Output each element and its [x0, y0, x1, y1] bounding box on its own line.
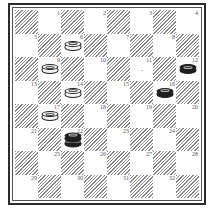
square-number: 16 — [169, 81, 175, 88]
square-dark — [176, 128, 199, 152]
square-number: 24 — [169, 128, 175, 135]
square-dark — [61, 10, 84, 34]
white-man-piece[interactable] — [64, 88, 81, 98]
square-number: 20 — [192, 104, 198, 111]
white-man-piece[interactable] — [41, 111, 58, 121]
square-number: 30 — [77, 175, 83, 182]
square-number: 32 — [169, 175, 175, 182]
checkers-board[interactable]: 1234567891011-12131415161718192021222324… — [15, 10, 199, 198]
square-number: 2 — [103, 10, 106, 17]
square-24[interactable]: 24 — [153, 128, 176, 152]
square-10[interactable]: 10 — [84, 57, 107, 81]
square-3[interactable]: 3 — [130, 10, 153, 34]
square-number: 19 — [146, 104, 152, 111]
square-number: 31 — [123, 175, 129, 182]
square-dark — [38, 175, 61, 199]
square-dark — [84, 34, 107, 58]
white-man-piece[interactable] — [41, 64, 58, 74]
square-number: 29 — [31, 175, 37, 182]
square-26[interactable]: 26 — [84, 151, 107, 175]
black-man-piece[interactable] — [179, 64, 196, 74]
square-18[interactable]: 18 — [84, 104, 107, 128]
square-dark — [107, 151, 130, 175]
square-dark — [61, 151, 84, 175]
square-7[interactable]: 7 — [107, 34, 130, 58]
square-dark — [15, 151, 38, 175]
square-dark — [153, 151, 176, 175]
square-dark — [153, 10, 176, 34]
square-13[interactable]: 13 — [15, 81, 38, 105]
square-16[interactable]: 16 — [153, 81, 176, 105]
square-1[interactable]: 1 — [38, 10, 61, 34]
square-number: 9 — [57, 57, 60, 64]
piece-ring-icon — [160, 89, 169, 92]
square-dark — [176, 34, 199, 58]
square-dark — [15, 10, 38, 34]
square-28[interactable]: 28 — [176, 151, 199, 175]
square-dark — [107, 104, 130, 128]
square-25[interactable]: 25 — [38, 151, 61, 175]
square-dark — [38, 128, 61, 152]
square-22[interactable]: 22 — [61, 128, 84, 152]
square-number: 23 — [123, 128, 129, 135]
square-dark — [107, 10, 130, 34]
square-number: 5 — [34, 34, 37, 41]
square-number: 12 — [192, 57, 198, 64]
square-dark — [130, 128, 153, 152]
square-mark: - — [141, 67, 143, 73]
square-27[interactable]: 27 — [130, 151, 153, 175]
square-number: 27 — [146, 151, 152, 158]
square-4[interactable]: 4 — [176, 10, 199, 34]
black-man-piece[interactable] — [156, 88, 173, 98]
square-number: 3 — [149, 10, 152, 17]
square-31[interactable]: 31 — [107, 175, 130, 199]
square-5[interactable]: 5 — [15, 34, 38, 58]
piece-ring-icon — [68, 89, 77, 92]
square-number: 25 — [54, 151, 60, 158]
square-11[interactable]: 11- — [130, 57, 153, 81]
square-number: 10 — [100, 57, 106, 64]
square-32[interactable]: 32 — [153, 175, 176, 199]
square-number: 18 — [100, 104, 106, 111]
square-number: 8 — [172, 34, 175, 41]
board-frame: 1234567891011-12131415161718192021222324… — [8, 3, 206, 205]
square-dark — [61, 104, 84, 128]
square-dark — [84, 81, 107, 105]
square-9[interactable]: 9 — [38, 57, 61, 81]
square-dark — [130, 175, 153, 199]
square-dark — [153, 104, 176, 128]
square-6[interactable]: 6 — [61, 34, 84, 58]
square-dark — [38, 34, 61, 58]
square-number: 26 — [100, 151, 106, 158]
square-19[interactable]: 19 — [130, 104, 153, 128]
piece-ring-icon — [68, 134, 77, 137]
square-30[interactable]: 30 — [61, 175, 84, 199]
square-dark — [107, 57, 130, 81]
piece-ring-icon — [45, 113, 54, 116]
square-number: 13 — [31, 81, 37, 88]
square-8[interactable]: 8 — [153, 34, 176, 58]
white-man-piece[interactable] — [64, 41, 81, 51]
square-20[interactable]: 20 — [176, 104, 199, 128]
square-number: 14 — [77, 81, 83, 88]
square-dark — [15, 57, 38, 81]
square-number: 6 — [80, 34, 83, 41]
square-21[interactable]: 21 — [15, 128, 38, 152]
square-dark — [61, 57, 84, 81]
black-king-piece[interactable] — [64, 132, 81, 147]
square-17[interactable]: 17 — [38, 104, 61, 128]
square-number: 17 — [54, 104, 60, 111]
square-dark — [15, 104, 38, 128]
square-number: 28 — [192, 151, 198, 158]
square-dark — [130, 81, 153, 105]
square-15[interactable]: 15 — [107, 81, 130, 105]
square-12[interactable]: 12 — [176, 57, 199, 81]
square-29[interactable]: 29 — [15, 175, 38, 199]
square-14[interactable]: 14 — [61, 81, 84, 105]
square-number: 11 — [146, 57, 152, 64]
square-number: 4 — [195, 10, 198, 17]
square-dark — [176, 81, 199, 105]
square-23[interactable]: 23 — [107, 128, 130, 152]
square-number: 21 — [31, 128, 37, 135]
square-2[interactable]: 2 — [84, 10, 107, 34]
